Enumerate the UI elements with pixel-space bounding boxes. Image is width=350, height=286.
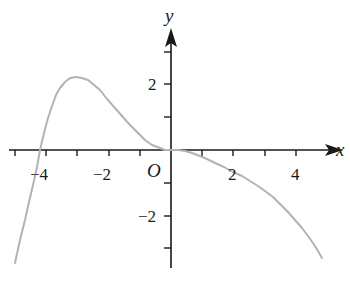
x-tick-label-neg4: −4 (30, 165, 49, 184)
y-axis-label: y (163, 5, 174, 26)
function-graph: x y O −4 −2 2 4 2 −2 (0, 0, 350, 286)
y-tick-label-2: 2 (148, 75, 157, 94)
x-tick-label-2: 2 (228, 165, 237, 184)
x-tick-label-4: 4 (291, 165, 300, 184)
function-curve (15, 77, 322, 263)
origin-label: O (147, 160, 161, 181)
x-ticks (15, 150, 296, 156)
y-tick-label-neg2: −2 (138, 207, 156, 226)
x-tick-label-neg2: −2 (93, 165, 111, 184)
x-axis-label: x (335, 139, 345, 160)
